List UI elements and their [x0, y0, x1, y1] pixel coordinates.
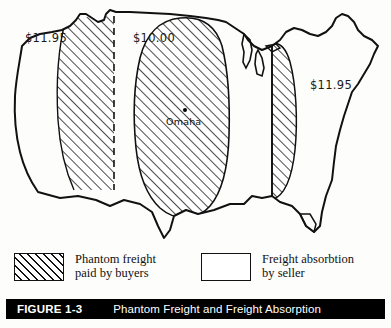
figure-number: FIGURE 1-3: [17, 303, 82, 315]
omaha-city-label: Omaha: [166, 116, 201, 127]
legend-label-absorption-line1: Freight absorbtion: [262, 252, 354, 266]
omaha-city-dot-icon: [183, 108, 187, 112]
legend-label-phantom-freight: Phantom freight paid by buyers: [75, 253, 156, 280]
figure-caption-bar: FIGURE 1-3 Phantom Freight and Freight A…: [6, 299, 385, 319]
price-label-central: $10.00: [133, 31, 175, 45]
price-label-east: $11.95: [310, 78, 352, 92]
legend: Phantom freight paid by buyers Freight a…: [0, 250, 391, 294]
lake-michigan-path: [255, 50, 264, 76]
figure-title: Phantom Freight and Freight Absorption: [113, 303, 321, 315]
legend-label-absorption-line2: by seller: [262, 267, 354, 281]
price-label-west: $11.95: [25, 31, 67, 45]
us-map-diagram: $11.95 $10.00 $11.95 Omaha: [0, 0, 391, 248]
zone-phantom-freight-east: [272, 44, 296, 200]
legend-swatch-empty-icon: [201, 253, 251, 281]
legend-item-phantom-freight: Phantom freight paid by buyers: [14, 253, 156, 281]
legend-label-phantom-line1: Phantom freight: [75, 252, 156, 266]
legend-item-freight-absorption: Freight absorbtion by seller: [201, 253, 354, 281]
legend-label-freight-absorption: Freight absorbtion by seller: [262, 253, 354, 280]
legend-label-phantom-line2: paid by buyers: [75, 267, 156, 281]
figure-container: $11.95 $10.00 $11.95 Omaha Phantom freig…: [0, 0, 391, 328]
legend-swatch-hatched-icon: [14, 253, 64, 281]
